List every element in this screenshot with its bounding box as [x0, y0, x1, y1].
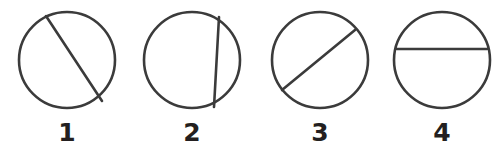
chord-line-2: [214, 17, 219, 107]
circle-label-2: 2: [183, 118, 200, 147]
circle-item-4: 4: [394, 12, 490, 147]
circle-outline-1: [19, 12, 115, 108]
circle-label-1: 1: [58, 118, 75, 147]
circle-item-3: 3: [272, 12, 368, 147]
circle-outline-4: [394, 12, 490, 108]
figure-container: 1 2 3 4: [0, 0, 503, 148]
circle-label-4: 4: [433, 118, 450, 147]
circle-outline-2: [144, 12, 240, 108]
circle-label-3: 3: [311, 118, 328, 147]
chord-line-3: [282, 30, 355, 90]
circle-item-1: 1: [19, 12, 115, 147]
circles-diagram: 1 2 3 4: [0, 0, 503, 148]
circle-item-2: 2: [144, 12, 240, 147]
chord-line-1: [46, 16, 102, 101]
